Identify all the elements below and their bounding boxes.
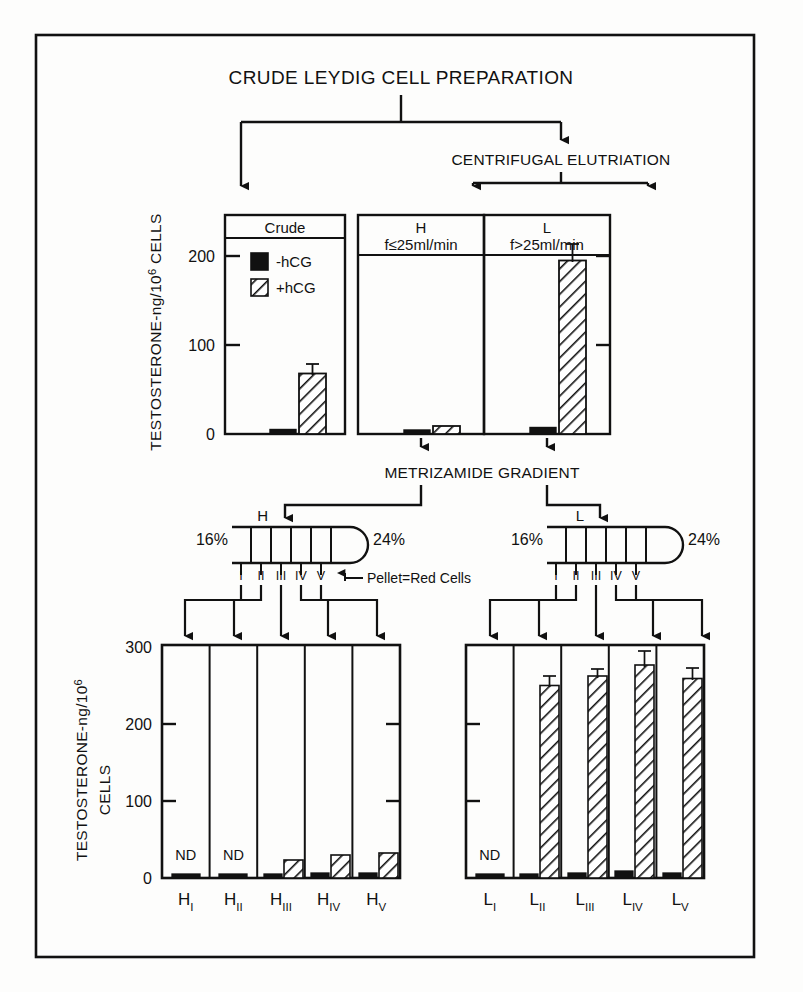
bar-h4-minus-hcg bbox=[311, 873, 329, 878]
bar-l5-plus-hcg bbox=[683, 679, 702, 879]
legend-swatch-minus-hcg bbox=[251, 253, 268, 270]
gradient-h-fraction-3: III bbox=[276, 569, 286, 583]
top-ytick-200: 200 bbox=[188, 248, 215, 265]
pellet-label: Pellet=Red Cells bbox=[367, 570, 471, 586]
bar-l1-minus-hcg bbox=[476, 874, 504, 878]
top-ytick-0: 0 bbox=[206, 426, 215, 443]
bottom-ytick-100: 100 bbox=[125, 793, 152, 810]
leydig-cell-figure: CRUDE LEYDIG CELL PREPARATION CENTRIFUGA… bbox=[0, 0, 803, 992]
legend-label-minus-hcg: -hCG bbox=[276, 253, 312, 270]
bar-crude-plus-hcg bbox=[299, 374, 326, 435]
bar-h3-minus-hcg bbox=[264, 874, 282, 878]
bar-h3-plus-hcg bbox=[284, 860, 303, 878]
bar-h-plus-hcg bbox=[433, 426, 460, 434]
gradient-l-low-pct: 16% bbox=[511, 531, 543, 548]
gradient-h-low-pct: 16% bbox=[196, 531, 228, 548]
top-axis-title-main: TESTOSTERONE-ng/10 bbox=[147, 275, 164, 451]
gradient-l-fraction-4: IV bbox=[610, 569, 622, 583]
bar-l2-minus-hcg bbox=[520, 874, 538, 878]
bar-l2-plus-hcg bbox=[540, 686, 559, 879]
top-axis-title: TESTOSTERONE-ng/106 CELLS bbox=[146, 213, 164, 450]
bottom-nd-l1: ND bbox=[479, 847, 500, 863]
top-panel-h-subheader: f≤25ml/min bbox=[384, 236, 457, 253]
bar-h-minus-hcg bbox=[404, 430, 430, 434]
top-ytick-100: 100 bbox=[188, 337, 215, 354]
bottom-nd-h2: ND bbox=[223, 847, 244, 863]
bar-crude-minus-hcg bbox=[270, 430, 296, 435]
gradient-h-fraction-5: V bbox=[317, 569, 326, 583]
bar-l-minus-hcg bbox=[530, 428, 556, 435]
gradient-l-high-pct: 24% bbox=[688, 531, 720, 548]
gradient-h-fraction-1: I bbox=[239, 569, 242, 583]
bar-l4-plus-hcg bbox=[635, 665, 654, 878]
bar-h5-plus-hcg bbox=[379, 853, 398, 878]
bar-l4-minus-hcg bbox=[615, 871, 633, 878]
top-panel-h-header: H bbox=[416, 219, 427, 236]
svg-text:TESTOSTERONE-ng/106: TESTOSTERONE-ng/106 bbox=[72, 679, 90, 861]
top-panel-crude-header: Crude bbox=[265, 219, 306, 236]
svg-text:TESTOSTERONE-ng/106 CELLS: TESTOSTERONE-ng/106 CELLS bbox=[146, 213, 164, 450]
bar-l3-plus-hcg bbox=[588, 676, 607, 878]
legend-swatch-plus-hcg bbox=[251, 279, 268, 296]
step-centrifugal-elutriation: CENTRIFUGAL ELUTRIATION bbox=[451, 151, 670, 168]
gradient-l-fraction-3: III bbox=[591, 569, 601, 583]
top-axis-title-cells: CELLS bbox=[147, 213, 164, 264]
bottom-axis-title-main: TESTOSTERONE-ng/10 bbox=[73, 685, 90, 861]
bottom-nd-h1: ND bbox=[175, 847, 196, 863]
step-metrizamide-gradient: METRIZAMIDE GRADIENT bbox=[384, 464, 580, 481]
bar-h2-minus-hcg bbox=[219, 874, 247, 878]
gradient-h-fraction-2: II bbox=[258, 569, 265, 583]
bar-l5-minus-hcg bbox=[663, 873, 681, 878]
gradient-l-label: L bbox=[576, 507, 584, 524]
bar-h5-minus-hcg bbox=[359, 873, 377, 878]
gradient-l-fraction-1: I bbox=[554, 569, 557, 583]
bottom-ytick-0: 0 bbox=[143, 870, 152, 887]
bar-l-plus-hcg bbox=[559, 261, 586, 435]
bar-h1-minus-hcg bbox=[172, 874, 200, 878]
legend-label-plus-hcg: +hCG bbox=[276, 279, 316, 296]
top-panel-l-header: L bbox=[543, 219, 551, 236]
figure-root: CRUDE LEYDIG CELL PREPARATION CENTRIFUGA… bbox=[0, 0, 803, 992]
gradient-l-fraction-5: V bbox=[632, 569, 641, 583]
bar-h4-plus-hcg bbox=[331, 855, 350, 878]
bottom-ytick-300: 300 bbox=[125, 639, 152, 656]
gradient-h-fraction-4: IV bbox=[295, 569, 307, 583]
gradient-h-label: H bbox=[257, 507, 268, 524]
bar-l3-minus-hcg bbox=[568, 873, 586, 878]
page-title: CRUDE LEYDIG CELL PREPARATION bbox=[229, 67, 574, 88]
bottom-ytick-200: 200 bbox=[125, 716, 152, 733]
bottom-axis-title-cells: CELLS bbox=[96, 765, 113, 816]
gradient-l-fraction-2: II bbox=[573, 569, 580, 583]
gradient-h-high-pct: 24% bbox=[373, 531, 405, 548]
bottom-axis-title-exp: 6 bbox=[72, 679, 84, 685]
